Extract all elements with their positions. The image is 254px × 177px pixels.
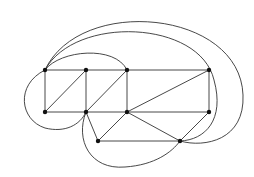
edge-F-C	[86, 70, 127, 112]
node-A	[43, 68, 47, 72]
node-D	[207, 68, 211, 72]
node-F	[84, 110, 88, 114]
edge-F-I	[86, 112, 98, 141]
node-C	[125, 68, 129, 72]
node-E	[43, 110, 47, 114]
node-I	[96, 139, 100, 143]
curved-edge-A-C-0	[45, 53, 127, 70]
curved-edge-A-J-1	[45, 32, 217, 141]
edges-layer	[24, 22, 243, 168]
edge-E-B	[45, 70, 86, 112]
node-H	[207, 110, 211, 114]
edge-G-D	[127, 70, 209, 112]
node-B	[84, 68, 88, 72]
graph-diagram	[0, 0, 254, 177]
node-G	[125, 110, 129, 114]
node-J	[178, 139, 182, 143]
edge-H-J	[180, 112, 209, 141]
edge-G-J	[127, 112, 180, 141]
edge-G-I	[98, 112, 127, 141]
